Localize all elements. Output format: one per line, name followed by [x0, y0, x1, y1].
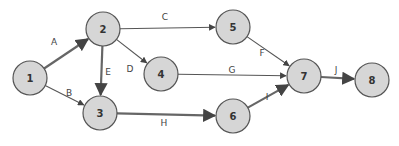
- network-diagram: ABCDEFGHIJ 12345678: [0, 0, 399, 146]
- edge-label-e: E: [105, 67, 111, 77]
- edge-label-b: B: [66, 88, 72, 98]
- edge-label-h: H: [161, 118, 168, 128]
- node-7: 7: [287, 59, 321, 93]
- node-label: 6: [230, 111, 237, 122]
- edge-label-g: G: [229, 65, 236, 75]
- edge-e: [101, 46, 103, 95]
- node-1: 1: [13, 61, 47, 95]
- node-label: 1: [27, 73, 34, 84]
- edge-label-c: C: [162, 12, 168, 22]
- edge-c: [120, 27, 215, 28]
- edge-b: [45, 86, 84, 105]
- edge-j: [321, 77, 354, 79]
- node-3: 3: [83, 96, 117, 130]
- edge-label-a: A: [51, 37, 58, 47]
- node-label: 4: [158, 69, 165, 80]
- edge-f: [247, 37, 289, 66]
- edge-d: [116, 39, 146, 63]
- node-5: 5: [216, 10, 250, 44]
- node-2: 2: [86, 12, 120, 46]
- node-label: 2: [100, 24, 107, 35]
- node-label: 3: [97, 108, 104, 119]
- node-label: 8: [369, 75, 376, 86]
- edge-label-i: I: [266, 92, 269, 102]
- edge-label-d: D: [127, 64, 134, 74]
- node-8: 8: [355, 63, 389, 97]
- node-label: 5: [230, 22, 237, 33]
- node-label: 7: [301, 71, 308, 82]
- edge-h: [117, 113, 215, 115]
- node-4: 4: [144, 57, 178, 91]
- node-6: 6: [216, 99, 250, 133]
- edge-label-f: F: [259, 48, 264, 58]
- edge-label-j: J: [334, 65, 338, 75]
